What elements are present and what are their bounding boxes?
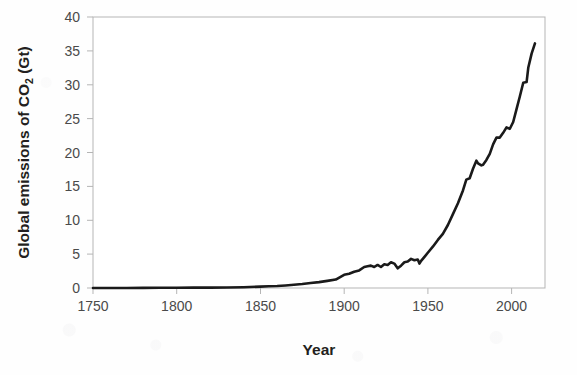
x-tick-label-2000: 2000 bbox=[496, 298, 527, 314]
x-tick-label-1850: 1850 bbox=[245, 298, 276, 314]
y-tick-group bbox=[87, 17, 93, 288]
x-tick-label-1750: 1750 bbox=[77, 298, 108, 314]
x-tick-label-1800: 1800 bbox=[161, 298, 192, 314]
y-tick-label-0: 0 bbox=[72, 280, 80, 296]
y-axis: 0 5 10 15 20 25 30 35 40 bbox=[64, 9, 93, 296]
y-tick-label-35: 35 bbox=[64, 43, 80, 59]
x-axis-title: Year bbox=[303, 341, 336, 358]
y-axis-title-pre: Global emissions of CO bbox=[15, 84, 32, 259]
y-tick-label-25: 25 bbox=[64, 111, 80, 127]
y-tick-label-10: 10 bbox=[64, 212, 80, 228]
y-axis-title: Global emissions of CO2 (Gt) bbox=[15, 46, 35, 259]
y-tick-label-20: 20 bbox=[64, 145, 80, 161]
x-tick-label-1950: 1950 bbox=[412, 298, 443, 314]
plot-background bbox=[93, 17, 545, 288]
co2-emissions-figure: 0 5 10 15 20 25 30 35 40 1750 1800 1850 … bbox=[0, 0, 577, 375]
y-axis-title-post: (Gt) bbox=[15, 46, 32, 78]
x-axis: 1750 1800 1850 1900 1950 2000 bbox=[77, 288, 527, 314]
y-tick-label-40: 40 bbox=[64, 9, 80, 25]
x-tick-label-1900: 1900 bbox=[329, 298, 360, 314]
y-tick-label-5: 5 bbox=[72, 246, 80, 262]
y-tick-label-15: 15 bbox=[64, 178, 80, 194]
chart-canvas: 0 5 10 15 20 25 30 35 40 1750 1800 1850 … bbox=[0, 0, 577, 375]
y-tick-label-30: 30 bbox=[64, 77, 80, 93]
